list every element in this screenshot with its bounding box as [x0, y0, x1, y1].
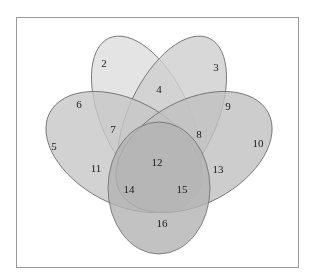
ellipse-bottom — [108, 122, 210, 254]
venn-diagram-svg: 2 3 4 5 6 7 8 9 10 11 12 13 14 15 16 — [0, 0, 314, 280]
venn-figure-root: 2 3 4 5 6 7 8 9 10 11 12 13 14 15 16 — [0, 0, 314, 280]
venn-ellipse-group — [25, 20, 292, 254]
